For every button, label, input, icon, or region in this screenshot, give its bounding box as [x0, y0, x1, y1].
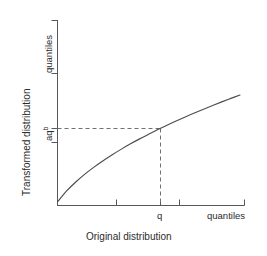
y-axis-unit-label: quantiles [44, 35, 54, 73]
x-tick-label-q: q [157, 211, 162, 221]
y-tick-label-aq-base: aq [43, 130, 54, 141]
transform-curve [58, 95, 241, 202]
y-tick-label-aq-b: aqb [44, 127, 54, 141]
figure-canvas: Transformed distribution quantiles aqb q… [0, 0, 267, 256]
y-tick-label-aq-exponent: b [42, 127, 49, 131]
y-axis-title: Transformed distribution [22, 89, 32, 196]
axes-group [57, 20, 245, 206]
x-axis-title: Original distribution [86, 232, 172, 242]
x-axis-ticks [117, 200, 245, 206]
x-axis-unit-label: quantiles [207, 211, 245, 221]
reference-lines-group [58, 129, 161, 206]
